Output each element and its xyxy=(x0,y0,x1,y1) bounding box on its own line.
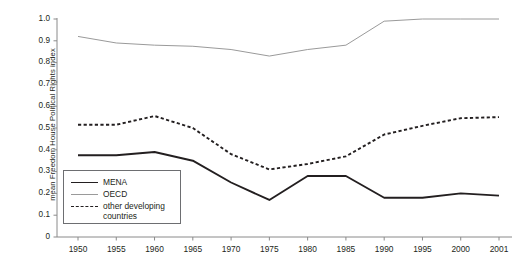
figure-caption xyxy=(6,259,306,267)
series-line-oecd xyxy=(78,19,499,56)
legend-item-other-developing: other developing xyxy=(71,200,165,211)
plot-area xyxy=(0,0,518,267)
legend-label-oecd: OECD xyxy=(103,189,127,199)
legend-line-mena-icon xyxy=(71,177,98,187)
legend-line-oecd-icon xyxy=(71,189,98,199)
legend: MENA OECD other developing countries xyxy=(63,170,181,224)
series-line-other-developing-countries xyxy=(78,116,499,169)
legend-label-other-developing: other developing xyxy=(103,201,165,211)
legend-line-other-developing-icon xyxy=(71,201,98,211)
legend-item-mena: MENA xyxy=(71,176,127,187)
legend-label-other-developing-line2: countries xyxy=(103,211,137,221)
chart-container: mean Freedom House Political Rights inde… xyxy=(0,0,518,267)
legend-label-mena: MENA xyxy=(103,177,127,187)
legend-item-oecd: OECD xyxy=(71,188,127,199)
